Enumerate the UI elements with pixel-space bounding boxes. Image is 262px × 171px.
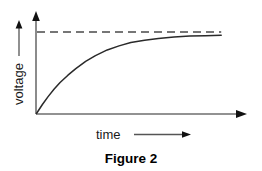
- y-axis-arrow-icon: [32, 11, 40, 21]
- time-label-arrow-right-icon: [182, 131, 191, 138]
- voltage-label-arrow-up-icon: [16, 20, 23, 29]
- x-axis-arrow-icon: [236, 110, 247, 118]
- figure-caption: Figure 2: [105, 151, 158, 166]
- x-axis-label: time: [96, 127, 121, 142]
- figure-container: voltage time Figure 2: [0, 0, 262, 171]
- voltage-vs-time-chart: voltage time Figure 2: [0, 0, 262, 171]
- y-axis-label: voltage: [11, 63, 26, 105]
- voltage-curve: [37, 35, 222, 113]
